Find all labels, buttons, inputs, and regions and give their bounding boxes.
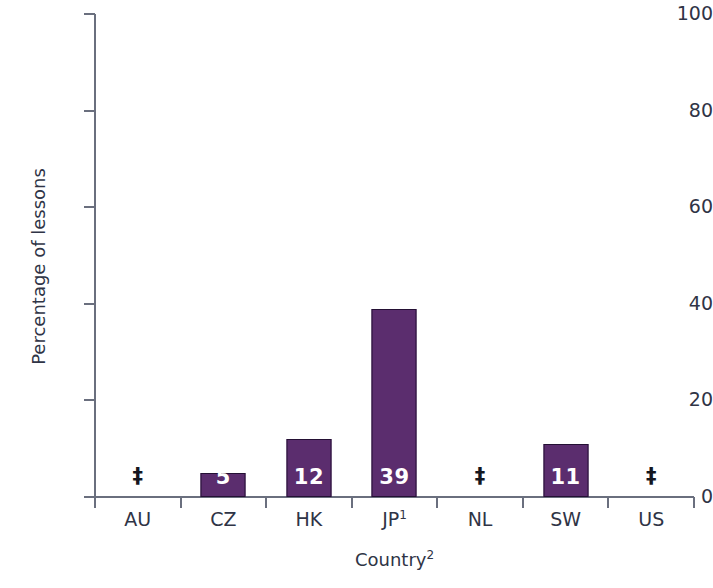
bar-group-nl: ‡ bbox=[437, 14, 523, 497]
x-axis-label-nl: NL bbox=[437, 508, 523, 531]
x-axis-tick bbox=[351, 497, 353, 508]
bar-group-hk: 12 bbox=[266, 14, 352, 497]
x-axis-label-text: CZ bbox=[210, 508, 236, 530]
x-axis-tick bbox=[180, 497, 182, 508]
suppressed-marker-au: ‡ bbox=[133, 466, 144, 487]
bar-value-label: 11 bbox=[544, 467, 587, 488]
plot-area: ‡51239‡11‡ bbox=[95, 14, 694, 497]
x-axis-tick bbox=[607, 497, 609, 508]
x-axis-label-text: US bbox=[638, 508, 664, 530]
y-axis-tick bbox=[84, 13, 95, 15]
x-axis-tick bbox=[265, 497, 267, 508]
x-axis-title-superscript: 2 bbox=[426, 548, 434, 562]
bar-chart: Percentage of lessons 020406080100 ‡5123… bbox=[0, 0, 713, 588]
y-axis-tick bbox=[84, 206, 95, 208]
y-axis-tick bbox=[84, 110, 95, 112]
bar-group-au: ‡ bbox=[95, 14, 181, 497]
x-axis-label-au: AU bbox=[95, 508, 181, 531]
x-axis-label-text: AU bbox=[124, 508, 151, 530]
x-axis-label-text: JP bbox=[382, 508, 399, 530]
x-axis-tick bbox=[94, 497, 96, 508]
x-axis-label-text: SW bbox=[550, 508, 581, 530]
x-axis-label-sw: SW bbox=[523, 508, 609, 531]
x-axis-tick bbox=[693, 497, 695, 508]
x-axis-tick bbox=[436, 497, 438, 508]
y-axis-tick bbox=[84, 303, 95, 305]
bar-sw[interactable]: 11 bbox=[543, 444, 588, 497]
bar-value-label: 12 bbox=[287, 467, 330, 488]
x-axis-label-jp: JP1 bbox=[352, 508, 438, 531]
suppressed-marker-nl: ‡ bbox=[475, 466, 486, 487]
x-axis-label-text: HK bbox=[296, 508, 323, 530]
bar-value-label: 39 bbox=[373, 467, 416, 488]
x-axis-label-superscript: 1 bbox=[399, 508, 407, 522]
bar-group-jp: 39 bbox=[352, 14, 438, 497]
bar-group-sw: 11 bbox=[523, 14, 609, 497]
x-axis-title: Country2 bbox=[95, 549, 694, 570]
x-axis-label-hk: HK bbox=[266, 508, 352, 531]
bar-jp[interactable]: 39 bbox=[372, 309, 417, 497]
x-axis-title-text: Country bbox=[355, 549, 427, 570]
x-axis-label-us: US bbox=[608, 508, 694, 531]
y-axis-tick bbox=[84, 399, 95, 401]
x-axis-tick bbox=[522, 497, 524, 508]
bar-group-us: ‡ bbox=[608, 14, 694, 497]
x-axis-label-cz: CZ bbox=[181, 508, 267, 531]
y-axis-title: Percentage of lessons bbox=[28, 137, 49, 397]
bar-group-cz: 5 bbox=[181, 14, 267, 497]
bar-hk[interactable]: 12 bbox=[286, 439, 331, 497]
bar-cz[interactable]: 5 bbox=[201, 473, 246, 497]
x-axis-label-text: NL bbox=[468, 508, 493, 530]
suppressed-marker-us: ‡ bbox=[646, 466, 657, 487]
bar-value-label: 5 bbox=[202, 467, 245, 488]
